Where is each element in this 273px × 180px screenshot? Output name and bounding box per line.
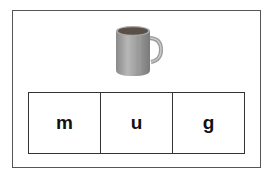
mug-icon bbox=[113, 24, 163, 78]
letter-box-1: m bbox=[29, 93, 101, 153]
letter-box-3: g bbox=[173, 93, 244, 153]
letter-box-2: u bbox=[101, 93, 173, 153]
letter-boxes: m u g bbox=[28, 92, 245, 154]
